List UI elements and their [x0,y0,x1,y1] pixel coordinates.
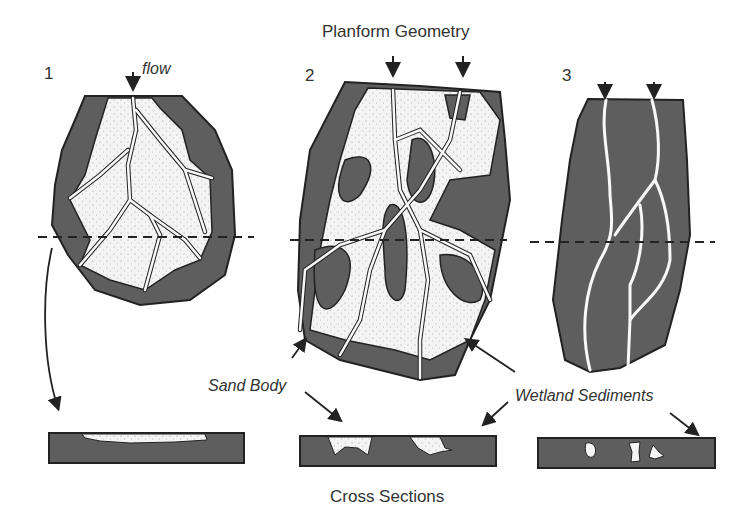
panel-3-planform [553,82,690,372]
panel-2-number: 2 [305,66,314,86]
panel-1-number: 1 [44,64,53,84]
flow-label: flow [142,60,170,78]
panel-1-planform [52,72,235,305]
cross-sections-title: Cross Sections [330,487,444,507]
cross-section-1 [49,433,244,463]
cross-section-3 [538,438,715,468]
cross-section-2 [300,436,496,466]
section-arrow-icon [45,248,58,408]
wetland-sediments-label: Wetland Sediments [515,387,653,405]
sand-body-label: Sand Body [208,377,286,395]
panel-3-number: 3 [562,66,571,86]
diagram-svg [0,0,751,528]
panel-2-planform [298,56,510,380]
diagram-canvas: Planform Geometry 1 flow 2 3 Sand Body W… [0,0,751,528]
planform-geometry-title: Planform Geometry [322,22,469,42]
